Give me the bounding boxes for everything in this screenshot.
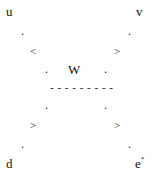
arrow-lower-left: >: [30, 120, 36, 131]
node-e-base: e: [135, 156, 141, 171]
node-w: W: [68, 63, 80, 76]
node-e-star: e*: [135, 157, 144, 170]
path-dot: .: [21, 138, 24, 150]
arrow-upper-right: >: [114, 46, 120, 57]
path-dot: .: [45, 99, 48, 111]
path-dot: .: [21, 25, 24, 37]
path-dot: .: [128, 25, 131, 37]
arrow-lower-right: >: [114, 120, 120, 131]
node-u: u: [6, 5, 13, 18]
path-dot: .: [104, 63, 107, 75]
node-v: v: [136, 5, 143, 18]
path-dot: .: [45, 63, 48, 75]
path-dot: .: [104, 99, 107, 111]
path-dot: .: [128, 138, 131, 150]
node-d: d: [6, 157, 13, 170]
node-e-superscript: *: [141, 155, 145, 163]
separator-dashes: - - - - - - - - -: [50, 82, 113, 93]
arrow-upper-left: <: [30, 46, 36, 57]
